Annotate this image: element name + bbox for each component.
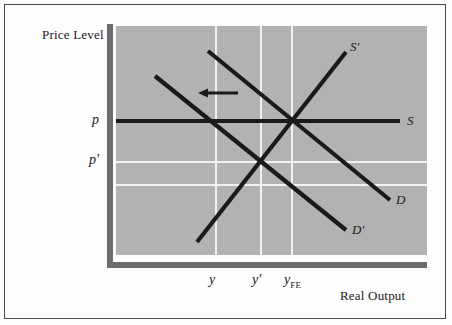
economics-diagram-figure: Price Level Real Output p p′ y y′ yFE S …: [0, 0, 452, 325]
tick-label-y-prime: y′: [252, 272, 261, 288]
gridline-horizontal-lower: [116, 184, 427, 186]
plot-area: [116, 26, 427, 255]
y-axis-title: Price Level: [42, 27, 104, 43]
tick-label-y: y: [209, 272, 215, 288]
tick-label-y-fe-subscript: FE: [290, 280, 301, 290]
gridline-vertical-y-fe: [291, 26, 293, 255]
gridline-vertical-y: [215, 26, 217, 255]
curve-label-S: S: [407, 113, 414, 129]
curve-label-D: D: [396, 192, 405, 208]
x-axis: [107, 262, 427, 268]
gridline-vertical-y-prime: [260, 26, 262, 255]
tick-label-p: p: [92, 112, 99, 128]
gridline-horizontal-p-prime: [116, 161, 427, 163]
curve-label-D-prime: D′: [352, 222, 364, 238]
curve-label-S-prime: S′: [350, 39, 359, 55]
y-axis: [107, 24, 113, 268]
tick-label-y-fe: yFE: [284, 272, 301, 290]
tick-label-p-prime: p′: [89, 152, 99, 168]
x-axis-title: Real Output: [340, 288, 405, 304]
